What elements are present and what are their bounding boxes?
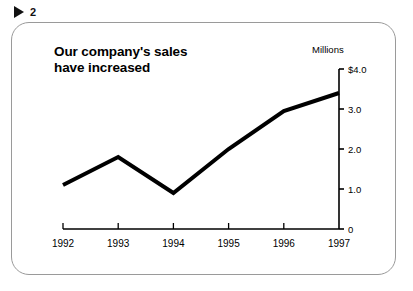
y-tick-label: 2.0 [348, 144, 361, 155]
y-tick-label: 3.0 [348, 104, 361, 115]
chart-svg: 01.02.03.0$4.0 199219931994199519961997 [12, 23, 397, 276]
play-triangle-icon [14, 6, 24, 18]
y-tick-label: 1.0 [348, 184, 361, 195]
x-tick-label: 1992 [52, 238, 75, 249]
x-tick-label: 1994 [162, 238, 185, 249]
x-tick-label: 1996 [273, 238, 296, 249]
chart-card: Our company's sales have increased Milli… [11, 22, 396, 275]
chart-axes [63, 69, 344, 229]
x-tick-label: 1997 [328, 238, 351, 249]
x-tick-label: 1993 [107, 238, 130, 249]
y-tick-label: $4.0 [348, 64, 367, 75]
figure-number: 2 [30, 7, 36, 18]
x-axis-ticks: 199219931994199519961997 [52, 238, 351, 249]
data-series-line [63, 93, 339, 193]
y-tick-label: 0 [348, 224, 353, 235]
figure-marker: 2 [14, 4, 36, 20]
chart-plot-area: Our company's sales have increased Milli… [12, 23, 397, 276]
x-tick-label: 1995 [217, 238, 240, 249]
y-axis-ticks: 01.02.03.0$4.0 [348, 64, 367, 235]
